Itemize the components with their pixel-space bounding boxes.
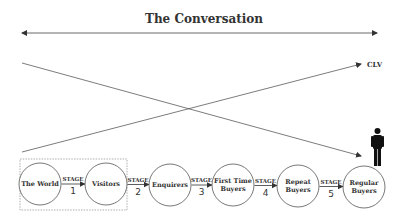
stage-label: STAGE xyxy=(255,178,276,184)
stage-label: STAGE xyxy=(63,176,84,182)
customer-journey-diagram: The Conversation CLV The WorldVisitorsEn… xyxy=(0,0,407,222)
clv-label: CLV xyxy=(367,60,383,69)
stage-number: 5 xyxy=(328,189,334,199)
stage-5: STAGE5 xyxy=(320,179,343,199)
node-label: The World xyxy=(21,180,59,188)
stage-number: 4 xyxy=(263,188,269,198)
node-label: Repeat xyxy=(285,178,310,186)
node-regular-buyers: RegularBuyers xyxy=(343,166,385,208)
stage-3: STAGE3 xyxy=(191,177,212,197)
stage-number: 3 xyxy=(199,187,205,197)
title: The Conversation xyxy=(145,12,263,26)
node-visitors: Visitors xyxy=(85,163,127,205)
node-enquirers: Enquirers xyxy=(149,164,191,206)
stage-4: STAGE4 xyxy=(255,178,277,198)
stage-label: STAGE xyxy=(321,179,342,185)
stage-label: STAGE xyxy=(191,177,212,183)
node-label: Visitors xyxy=(91,180,120,188)
stage-1: STAGE1 xyxy=(62,176,85,196)
node-label: Regular xyxy=(350,179,379,187)
node-label: First Time xyxy=(214,177,252,185)
node-label: Buyers xyxy=(285,186,311,194)
stage-2: STAGE2 xyxy=(128,177,149,197)
node-label: Enquirers xyxy=(152,181,188,189)
node-repeat-buyers: RepeatBuyers xyxy=(277,165,319,207)
node-first-time-buyers: First TimeBuyers xyxy=(212,164,254,206)
stage-label: STAGE xyxy=(128,177,149,183)
stage-number: 2 xyxy=(135,187,141,197)
person-icon xyxy=(371,128,384,166)
node-world: The World xyxy=(19,163,61,205)
node-label: Buyers xyxy=(351,187,377,195)
diagram-canvas: The Conversation CLV The WorldVisitorsEn… xyxy=(0,0,407,222)
node-label: Buyers xyxy=(220,185,246,193)
stage-number: 1 xyxy=(70,186,76,196)
